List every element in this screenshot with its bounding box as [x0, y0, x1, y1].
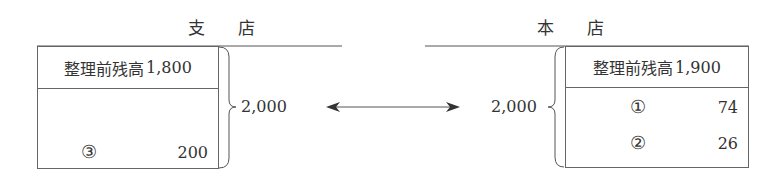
head-office-entry-amount: 26: [718, 133, 738, 155]
branch-opening-balance: 整理前残高 1,800: [38, 47, 218, 89]
head-office-entry-marker: ②: [629, 134, 647, 152]
head-office-opening-balance: 整理前残高 1,900: [566, 47, 748, 88]
branch-entry-marker: ③: [80, 143, 98, 161]
branch-opening-label: 整理前残高: [64, 56, 144, 80]
head-office-total: 2,000: [491, 97, 537, 116]
head-office-brace: [548, 47, 564, 167]
head-office-entry-row: ① 74: [566, 97, 748, 119]
head-office-entry-marker: ①: [629, 98, 647, 116]
branch-account-box: 整理前残高 1,800 ③ 200: [37, 46, 219, 169]
head-office-opening-label: 整理前残高: [593, 55, 673, 79]
head-office-account-box: 整理前残高 1,900 ① 74 ② 26: [565, 46, 749, 168]
head-office-entry-amount: 74: [718, 97, 738, 119]
head-office-opening-amount: 1,900: [675, 58, 721, 77]
branch-entry-amount: 200: [177, 142, 208, 164]
branch-total: 2,000: [241, 97, 287, 116]
branch-entry-row: ③ 200: [38, 142, 218, 164]
head-office-title: 本 店: [537, 14, 618, 39]
branch-brace: [219, 47, 236, 168]
head-office-entry-row: ② 26: [566, 133, 748, 155]
branch-opening-amount: 1,800: [146, 58, 192, 77]
branch-title: 支 店: [188, 14, 269, 39]
